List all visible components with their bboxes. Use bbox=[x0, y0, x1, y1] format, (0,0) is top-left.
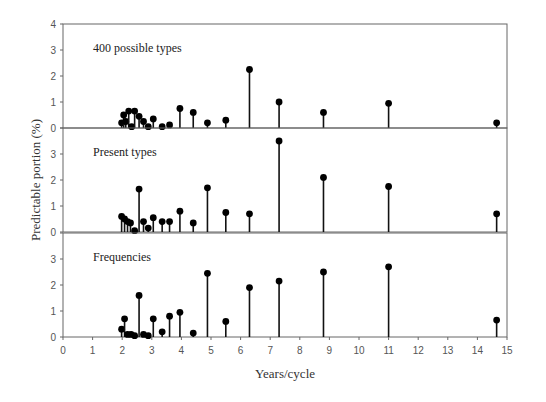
stem-marker bbox=[121, 315, 128, 322]
x-tick-label: 12 bbox=[413, 345, 425, 356]
y-tick-label: 0 bbox=[50, 227, 56, 238]
stem-marker bbox=[385, 183, 392, 190]
stem-marker bbox=[140, 218, 147, 225]
x-axis: 0123456789101112131415 bbox=[60, 337, 513, 356]
stem-marker bbox=[222, 318, 229, 325]
stem-marker bbox=[204, 119, 211, 126]
stem-marker bbox=[177, 105, 184, 112]
panel-2: 0123Present types bbox=[50, 128, 507, 238]
stem-marker bbox=[320, 174, 327, 181]
panel-title: 400 possible types bbox=[93, 41, 182, 55]
stem-marker bbox=[159, 123, 166, 130]
x-tick-label: 8 bbox=[297, 345, 303, 356]
stem-marker bbox=[222, 117, 229, 124]
stem-marker bbox=[246, 284, 253, 291]
stem-marker bbox=[159, 218, 166, 225]
stem-marker bbox=[177, 309, 184, 316]
stem-chart-figure: 01234400 possible types0123Present types… bbox=[0, 0, 546, 402]
stem-marker bbox=[493, 317, 500, 324]
stem-marker bbox=[276, 138, 283, 145]
x-tick-label: 4 bbox=[179, 345, 185, 356]
panel-title: Present types bbox=[93, 145, 157, 159]
y-tick-label: 3 bbox=[50, 149, 56, 160]
stem-marker bbox=[140, 118, 147, 125]
y-tick-label: 0 bbox=[50, 332, 56, 343]
stem-marker bbox=[320, 269, 327, 276]
stem-marker bbox=[276, 278, 283, 285]
stem-marker bbox=[145, 332, 152, 339]
y-tick-label: 2 bbox=[50, 175, 56, 186]
panel-title: Frequencies bbox=[93, 250, 151, 264]
stem-marker bbox=[190, 220, 197, 227]
stem-marker bbox=[190, 109, 197, 116]
stem-marker bbox=[150, 116, 157, 123]
x-tick-label: 10 bbox=[353, 345, 365, 356]
stem-marker bbox=[125, 108, 132, 115]
stem-marker bbox=[136, 113, 143, 120]
y-axis-label: Predictable portion (%) bbox=[28, 119, 43, 241]
stem-marker bbox=[204, 184, 211, 191]
stem-marker bbox=[246, 66, 253, 73]
stem-marker bbox=[136, 186, 143, 193]
stem-marker bbox=[150, 214, 157, 221]
stem-marker bbox=[177, 208, 184, 215]
stem-marker bbox=[276, 99, 283, 106]
stem-marker bbox=[246, 210, 253, 217]
x-axis-label: Years/cycle bbox=[255, 366, 315, 381]
y-tick-label: 1 bbox=[50, 306, 56, 317]
stem-marker bbox=[320, 109, 327, 116]
x-tick-label: 14 bbox=[472, 345, 484, 356]
y-tick-label: 3 bbox=[50, 45, 56, 56]
stem-marker bbox=[204, 270, 211, 277]
y-tick-label: 1 bbox=[50, 201, 56, 212]
x-tick-label: 1 bbox=[90, 345, 96, 356]
stem-marker bbox=[150, 315, 157, 322]
stem-marker bbox=[190, 330, 197, 337]
x-tick-label: 13 bbox=[442, 345, 454, 356]
stem-marker bbox=[166, 218, 173, 225]
x-tick-label: 0 bbox=[60, 345, 66, 356]
x-tick-label: 5 bbox=[208, 345, 214, 356]
y-tick-label: 2 bbox=[50, 71, 56, 82]
panel-3: 0123Frequencies bbox=[50, 233, 507, 343]
stem-marker bbox=[493, 119, 500, 126]
panel-frame bbox=[63, 128, 507, 232]
panel-frame bbox=[63, 233, 507, 337]
stem-marker bbox=[131, 108, 138, 115]
y-tick-label: 3 bbox=[50, 254, 56, 265]
stem-marker bbox=[166, 313, 173, 320]
x-tick-label: 2 bbox=[119, 345, 125, 356]
stem-marker bbox=[222, 209, 229, 216]
stem-marker bbox=[145, 225, 152, 232]
x-tick-label: 9 bbox=[327, 345, 333, 356]
y-tick-label: 1 bbox=[50, 97, 56, 108]
stem-marker bbox=[385, 100, 392, 107]
x-tick-label: 15 bbox=[501, 345, 513, 356]
x-tick-label: 6 bbox=[238, 345, 244, 356]
x-tick-label: 3 bbox=[149, 345, 155, 356]
stem-marker bbox=[166, 121, 173, 128]
chart-panels: 01234400 possible types0123Present types… bbox=[50, 19, 507, 343]
stem-marker bbox=[493, 210, 500, 217]
y-tick-label: 4 bbox=[50, 19, 56, 30]
x-tick-label: 7 bbox=[267, 345, 273, 356]
stem-marker bbox=[145, 123, 152, 130]
y-tick-label: 2 bbox=[50, 280, 56, 291]
stem-marker bbox=[127, 220, 134, 227]
x-tick-label: 11 bbox=[383, 345, 394, 356]
stem-marker bbox=[159, 328, 166, 335]
stem-marker bbox=[385, 263, 392, 270]
stem-marker bbox=[136, 292, 143, 299]
panel-1: 01234400 possible types bbox=[50, 19, 507, 134]
stem-marker bbox=[131, 332, 138, 339]
y-tick-label: 0 bbox=[50, 123, 56, 134]
